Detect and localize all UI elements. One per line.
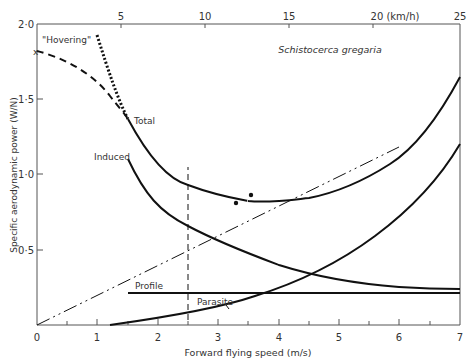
y-tick-label: 2·0 xyxy=(18,19,34,30)
top-tick-labels: 5 10 15 20 (km/h) 25 xyxy=(118,11,467,22)
label-induced: Induced xyxy=(94,152,130,162)
data-point xyxy=(249,193,253,197)
series-total xyxy=(128,77,460,202)
chart-title: Schistocerca gregaria xyxy=(278,44,382,55)
top-tick-label: 20 (km/h) xyxy=(371,11,420,22)
x-tick-label: 6 xyxy=(396,332,402,343)
top-tick-label: 15 xyxy=(283,11,296,22)
x-tick-label: 3 xyxy=(215,332,221,343)
y-axis-label: Specific aerodynamic power (W/N) xyxy=(9,97,19,253)
x-tick-label: 5 xyxy=(336,332,342,343)
y-ticks xyxy=(37,99,43,250)
y-tick-label: 1·0 xyxy=(18,169,34,180)
label-parasite: Parasite xyxy=(197,297,233,307)
x-tick-label: 7 xyxy=(457,332,463,343)
x-tick-label: 2 xyxy=(155,332,161,343)
y-tick-label: 1·5 xyxy=(18,94,34,105)
x-tick-label: 4 xyxy=(276,332,282,343)
series-induced-extrapolation xyxy=(97,35,128,119)
top-tick-label: 25 xyxy=(454,11,467,22)
top-tick-label: 10 xyxy=(199,11,212,22)
top-ticks xyxy=(121,24,373,28)
chart: 0 1 2 3 4 5 6 7 Forward flying speed (m/… xyxy=(0,0,475,361)
data-point xyxy=(234,201,238,205)
series-parasite xyxy=(110,144,460,325)
label-hovering: "Hovering" xyxy=(42,35,91,45)
x-tick-labels: 0 1 2 3 4 5 6 7 xyxy=(34,332,463,343)
annotations: "Hovering" Total Induced Profile Parasit… xyxy=(42,35,233,307)
x-tick-label: 0 xyxy=(34,332,40,343)
x-axis-label: Forward flying speed (m/s) xyxy=(184,347,311,358)
y-tick-label: 0·5 xyxy=(18,245,34,256)
top-tick-label: 5 xyxy=(118,11,124,22)
hovering-marker: x xyxy=(33,47,39,57)
label-profile: Profile xyxy=(135,281,163,291)
axes xyxy=(37,24,460,325)
y-tick-labels: 0·5 1·0 1·5 2·0 xyxy=(18,19,34,256)
x-tick-label: 1 xyxy=(94,332,100,343)
label-total: Total xyxy=(133,116,155,126)
series-induced xyxy=(128,159,460,289)
